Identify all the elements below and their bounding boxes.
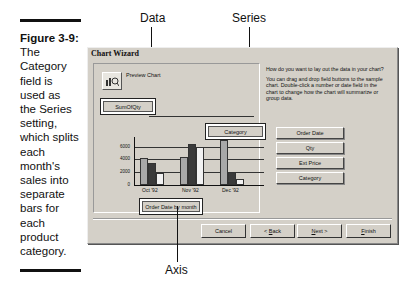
next-button[interactable]: Next > xyxy=(297,224,342,238)
field-button-qty[interactable]: Qty xyxy=(276,142,344,154)
x-tick-label: Nov '92 xyxy=(182,187,199,193)
callout-data: Data xyxy=(140,11,165,25)
dialog-separator xyxy=(93,218,392,220)
x-tick-label: Dec '92 xyxy=(222,187,239,193)
cancel-button[interactable]: Cancel xyxy=(201,224,246,238)
chart-bar xyxy=(196,147,204,185)
callout-series: Series xyxy=(232,11,266,25)
caption-line: product xyxy=(20,230,88,244)
field-button-order-date[interactable]: Order Date xyxy=(276,127,344,139)
field-button-ext-price[interactable]: Ext Price xyxy=(276,157,344,169)
caption-line: each xyxy=(20,216,88,230)
caption-line: which splits xyxy=(20,130,88,144)
caption-line: used as xyxy=(20,88,88,102)
caption-line: separate xyxy=(20,187,88,201)
y-tick-label: 0 xyxy=(116,182,130,187)
y-tick-label: 6000 xyxy=(116,144,130,149)
caption-text: TheCategoryfield isused asthe Seriessett… xyxy=(20,45,88,258)
series-drop-field[interactable]: Category xyxy=(208,126,263,137)
chart-bar xyxy=(220,140,228,185)
back-button[interactable]: < Back xyxy=(250,224,295,238)
preview-chart: 6000400020000Oct '92Nov '92Dec '92 xyxy=(134,137,264,185)
instructions: How do you want to lay out the data in y… xyxy=(266,66,384,105)
chart-top-line xyxy=(149,116,254,117)
bottom-rule xyxy=(20,269,81,272)
top-rule xyxy=(20,19,81,22)
chart-bar xyxy=(236,179,244,185)
y-tick-label: 2000 xyxy=(116,169,130,174)
next-rest: ext > xyxy=(315,228,327,234)
caption-line: setting, xyxy=(20,116,88,130)
figure-caption: Figure 3-9: TheCategoryfield isused asth… xyxy=(20,31,88,258)
data-drop-field[interactable]: SumOfQty xyxy=(103,101,153,112)
caption-line: month's xyxy=(20,159,88,173)
caption-line: The xyxy=(20,45,88,59)
caption-line: each xyxy=(20,145,88,159)
chart-wizard-dialog: Chart Wizard Preview Chart SumOfQty 6000… xyxy=(87,47,398,244)
caption-line: field is xyxy=(20,74,88,88)
field-button-category[interactable]: Category xyxy=(276,172,344,184)
back-rest: ack xyxy=(272,228,281,234)
chart-gridline xyxy=(134,185,264,186)
caption-line: Category xyxy=(20,59,88,73)
caption-line: sales into xyxy=(20,173,88,187)
callout-axis: Axis xyxy=(165,263,188,277)
instructions-help: You can drag and drop field buttons to t… xyxy=(266,76,384,101)
chart-bar xyxy=(180,157,188,185)
chart-bar xyxy=(140,158,148,185)
chart-bar xyxy=(148,163,156,185)
chart-bar xyxy=(188,144,196,185)
x-tick-label: Oct '92 xyxy=(142,187,158,193)
preview-chart-label: Preview Chart xyxy=(126,72,161,78)
finish-rest: inish xyxy=(365,228,376,234)
instructions-question: How do you want to lay out the data in y… xyxy=(266,66,384,72)
figure-label: Figure 3-9: xyxy=(20,32,79,44)
y-tick-label: 4000 xyxy=(116,156,130,161)
caption-line: the Series xyxy=(20,102,88,116)
caption-line: bars for xyxy=(20,201,88,215)
preview-chart-icon[interactable] xyxy=(102,72,122,90)
y-axis xyxy=(134,137,135,185)
finish-button[interactable]: Finish xyxy=(346,224,391,238)
axis-drop-field[interactable]: Order Date by month xyxy=(142,201,200,212)
caption-line: category. xyxy=(20,244,88,258)
callout-axis-line xyxy=(177,206,178,262)
dialog-title: Chart Wizard xyxy=(88,48,397,60)
chart-bar xyxy=(156,173,164,185)
chart-bar xyxy=(228,172,236,185)
preview-panel: Preview Chart SumOfQty 6000400020000Oct … xyxy=(93,63,260,213)
